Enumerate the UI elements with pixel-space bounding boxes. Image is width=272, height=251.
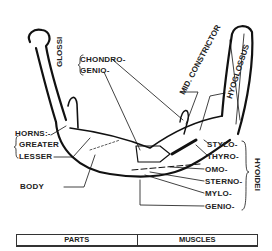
label-mylo: MYLO- bbox=[205, 189, 232, 198]
label-genio-glossi: GENIO- bbox=[80, 66, 110, 75]
label-glossi: GLOSSI bbox=[55, 37, 64, 67]
hyoid-diagram bbox=[0, 0, 272, 251]
label-chondro: CHONDRO- bbox=[80, 55, 126, 64]
label-sterno: STERNO- bbox=[205, 177, 242, 186]
label-omo: OMO- bbox=[205, 165, 228, 174]
parts-muscles-table: PARTS MUSCLES bbox=[16, 234, 258, 247]
label-greater: GREATER bbox=[19, 140, 59, 149]
table-header-parts: PARTS bbox=[17, 235, 137, 245]
label-body: BODY bbox=[20, 182, 44, 191]
label-lesser: LESSER bbox=[19, 152, 52, 161]
table-header-muscles: MUSCLES bbox=[137, 235, 258, 245]
label-hyoidei: HYOIDEI bbox=[253, 158, 262, 191]
label-stylo: STYLO- bbox=[207, 140, 238, 149]
label-thyro: THYRO- bbox=[207, 152, 239, 161]
label-genio-hyoidei: GENIO- bbox=[205, 202, 235, 211]
label-horns: HORNS:- bbox=[15, 129, 51, 138]
left-lesser-horn bbox=[68, 97, 78, 128]
